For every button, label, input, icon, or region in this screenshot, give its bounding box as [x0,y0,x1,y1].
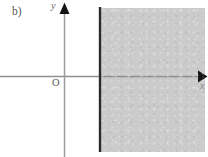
figure-panel-b: b) y x O [0,0,208,157]
y-axis-arrow-icon [60,3,70,15]
x-axis-label: x [200,81,205,92]
panel-label: b) [12,6,22,18]
origin-label: O [52,78,60,89]
shaded-region [101,8,205,152]
coordinate-plane-svg [0,0,208,157]
y-axis-label: y [51,1,56,12]
